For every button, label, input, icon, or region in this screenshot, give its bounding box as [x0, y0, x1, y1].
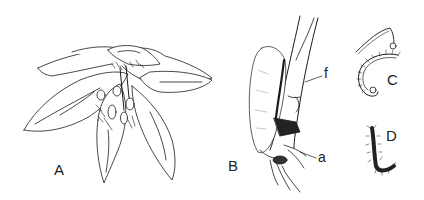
- annotation-f: f: [324, 66, 328, 80]
- panel-label-a: A: [54, 162, 64, 177]
- figure: A B C D f a: [0, 0, 424, 200]
- panel-label-c: C: [387, 72, 398, 87]
- panel-label-d: D: [386, 128, 397, 143]
- panel-a-flower-drawing: [24, 46, 212, 183]
- annotation-a: a: [318, 150, 326, 164]
- panel-label-b: B: [228, 158, 238, 173]
- panel-b-insect-drawing: [249, 16, 322, 192]
